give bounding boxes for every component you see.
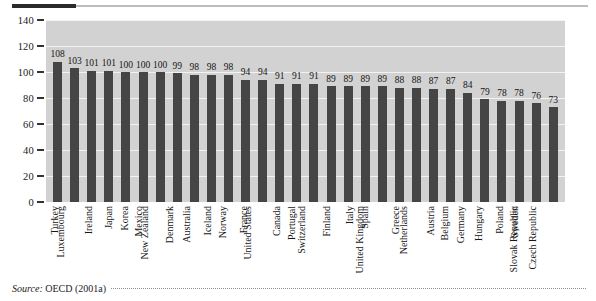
bar-value-label: 88 (412, 76, 422, 86)
bar-item[interactable]: 89 (374, 20, 391, 202)
bar-value-label: 101 (85, 59, 99, 69)
x-axis-tick-label: Denmark (159, 169, 170, 206)
x-axis-tick: United States (254, 204, 271, 274)
page-top-rule (0, 4, 596, 9)
x-axis-tick-label: Hungary (467, 171, 478, 206)
x-axis-tick-label-text: United States (241, 206, 252, 260)
bar-value-label: 76 (531, 92, 541, 102)
x-axis-tick-label: Austria (419, 177, 430, 206)
source-label: Source: (12, 283, 43, 294)
y-axis-tick-mark (37, 71, 44, 73)
y-axis-tick-label: 120 (18, 41, 34, 52)
x-axis-tick-label-text: Canada (270, 206, 281, 236)
x-axis-tick-label-text: Slovak Republic (508, 206, 519, 272)
x-axis-tick-label-text: New Zealand (139, 206, 150, 260)
plot-area: 1081031011011001001009998989894949191918… (46, 20, 565, 202)
bar-value-label: 87 (429, 77, 439, 87)
bar-value-label: 89 (326, 75, 336, 85)
x-axis-tick-label: Iceland (197, 177, 208, 206)
bar-item[interactable]: 101 (83, 20, 100, 202)
x-axis-tick-label: Finland (316, 175, 327, 206)
bar-value-label: 89 (378, 75, 388, 85)
figure-source-footer: Source: OECD (2001a) (0, 279, 596, 297)
x-axis-tick-label: Japan (97, 183, 108, 206)
bar-item[interactable]: 88 (408, 20, 425, 202)
x-axis-tick-label-text: Netherlands (398, 206, 409, 254)
x-axis-tick-label-text: Denmark (164, 206, 175, 243)
bar-value-label: 98 (224, 63, 234, 73)
bar-item[interactable]: 94 (254, 20, 271, 202)
bar-value-label: 100 (119, 61, 133, 71)
x-axis-tick-label: United Kingdom (349, 139, 360, 207)
bar-chart-figure: 020406080100120140 108103101101100100100… (0, 12, 596, 274)
bar-value-label: 78 (497, 89, 507, 99)
x-axis-tick-label: New Zealand (133, 152, 144, 206)
bar[interactable] (327, 86, 336, 202)
y-axis-tick-label: 140 (18, 15, 34, 26)
y-axis-tick-mark (37, 123, 44, 125)
x-axis-tick-label-text: Switzerland (296, 206, 307, 254)
bar-item[interactable]: 79 (476, 20, 493, 202)
bar-value-label: 84 (463, 81, 473, 91)
x-axis-tick-label-text: Czech Republic (527, 206, 538, 270)
x-axis-tick-label-text: Belgium (439, 206, 450, 240)
bar-value-label: 79 (480, 88, 490, 98)
bar-value-label: 100 (153, 61, 167, 71)
x-axis-tick: Switzerland (305, 204, 322, 274)
bar-value-label: 101 (102, 59, 116, 69)
x-axis-tick-label: Belgium (433, 172, 444, 206)
x-axis-tick-label-text: Norway (218, 206, 229, 238)
x-axis-tick: Netherlands (408, 204, 425, 274)
x-axis-tick-label-text: Austria (424, 206, 435, 235)
x-axis-tick: Norway (220, 204, 237, 274)
source-text: Source: OECD (2001a) (12, 283, 106, 294)
y-axis: 020406080100120140 (0, 12, 46, 202)
bar-value-label: 94 (258, 68, 268, 78)
x-axis-tick-label: Netherlands (392, 158, 403, 206)
source-note: OECD (2001a) (45, 283, 106, 294)
x-axis-tick-label-text: Germany (455, 206, 466, 243)
y-axis-tick-mark (37, 149, 44, 151)
x-axis-tick-label: Switzerland (290, 158, 301, 206)
top-rule-dark-segment (12, 4, 76, 8)
y-axis-tick-mark (37, 97, 44, 99)
x-axis-tick: Finland (323, 204, 340, 274)
x-axis-tick-label: Czech Republic (521, 142, 532, 206)
bar-value-label: 91 (309, 72, 319, 82)
x-axis-tick-label-text: Poland (494, 206, 505, 234)
bar-value-label: 98 (207, 63, 217, 73)
bar-value-label: 94 (241, 68, 251, 78)
bar-item[interactable]: 89 (357, 20, 374, 202)
x-axis-tick: United Kingdom (374, 204, 391, 274)
x-axis-tick-label-text: United Kingdom (354, 206, 365, 274)
y-axis-tick-label: 80 (23, 93, 34, 104)
top-rule-light-segment (76, 5, 588, 7)
bar-item[interactable]: 98 (186, 20, 203, 202)
x-axis-tick-label-text: Australia (181, 206, 192, 243)
bar[interactable] (532, 103, 541, 202)
bar-value-label: 89 (360, 75, 370, 85)
bar[interactable] (549, 107, 558, 202)
x-axis-tick-label-text: Japan (103, 206, 114, 229)
bar-value-label: 73 (549, 96, 559, 106)
bar-value-label: 99 (172, 62, 182, 72)
bar-value-label: 88 (395, 76, 405, 86)
bar-value-label: 87 (446, 77, 456, 87)
x-axis-tick-label: Germany (449, 169, 460, 206)
bar-item[interactable]: 103 (66, 20, 83, 202)
x-axis-tick-label: Norway (212, 174, 223, 206)
x-axis-tick-label: Australia (176, 169, 187, 206)
y-axis-tick-mark (37, 19, 44, 21)
y-axis-tick-label: 60 (23, 119, 34, 130)
x-axis-tick-label-text: Ireland (83, 206, 94, 234)
bar-value-label: 91 (292, 72, 302, 82)
x-axis-tick-label-text: Iceland (202, 206, 213, 235)
bar-value-label: 78 (514, 89, 524, 99)
x-axis: TurkeyLuxembourgIrelandJapanKoreaMexicoN… (46, 204, 565, 274)
y-axis-tick-label: 0 (29, 197, 34, 208)
x-axis-tick-label: United States (236, 152, 247, 206)
bar-item[interactable]: 73 (545, 20, 562, 202)
x-axis-tick-label: Luxembourg (49, 155, 60, 206)
bar-item[interactable]: 101 (100, 20, 117, 202)
y-axis-tick-mark (37, 45, 44, 47)
